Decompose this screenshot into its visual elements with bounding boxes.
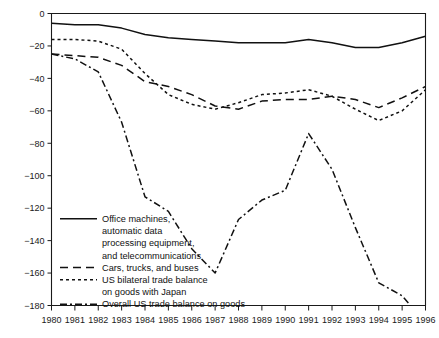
legend-label-0-3: and telecommunications [102,251,201,261]
x-tick-label: 1983 [112,315,132,325]
x-tick-label: 1981 [65,315,85,325]
y-tick-label: −160 [24,268,44,278]
y-tick-label: −40 [29,74,44,84]
x-tick-label: 1985 [158,315,178,325]
chart-figure: 0−20−40−60−80−100−120−140−160−180 198019… [0,0,439,338]
legend-label-0-2: processing equipment, [102,238,194,248]
x-tick-label: 1990 [275,315,295,325]
y-tick-label: −20 [29,41,44,51]
y-tick-label: −140 [24,236,44,246]
legend-label-1-0: Cars, trucks, and buses [102,263,199,273]
x-tick-label: 1995 [392,315,412,325]
y-axis-ticks: 0−20−40−60−80−100−120−140−160−180 [24,9,51,311]
x-tick-label: 1991 [299,315,319,325]
legend-label-0-1: automatic data [102,226,163,236]
y-tick-label: −120 [24,203,44,213]
x-tick-label: 1987 [205,315,225,325]
legend-label-3-0: Overall US trade balance on goods [102,299,245,309]
x-tick-label: 1994 [369,315,389,325]
x-tick-label: 1993 [345,315,365,325]
series-line-2 [52,39,426,120]
series-line-1 [52,54,426,109]
chart-axes [52,14,426,306]
x-tick-label: 1992 [322,315,342,325]
line-chart: 0−20−40−60−80−100−120−140−160−180 198019… [0,0,439,338]
legend-label-2-0: US bilateral trade balance [102,275,208,285]
legend-label-0-0: Office machines, [102,214,170,224]
x-tick-label: 1980 [41,315,61,325]
y-tick-label: −100 [24,171,44,181]
y-tick-label: 0 [39,9,44,19]
legend-label-2-1: on goods with Japan [102,287,186,297]
x-tick-label: 1984 [135,315,155,325]
x-tick-label: 1986 [182,315,202,325]
x-tick-label: 1982 [88,315,108,325]
y-tick-label: −80 [29,139,44,149]
plot-frame [52,14,426,306]
x-tick-label: 1996 [415,315,435,325]
y-tick-label: −60 [29,106,44,116]
y-tick-label: −180 [24,301,44,311]
chart-legend: Office machines,automatic dataprocessing… [60,214,245,309]
x-tick-label: 1988 [228,315,248,325]
x-tick-label: 1989 [252,315,272,325]
